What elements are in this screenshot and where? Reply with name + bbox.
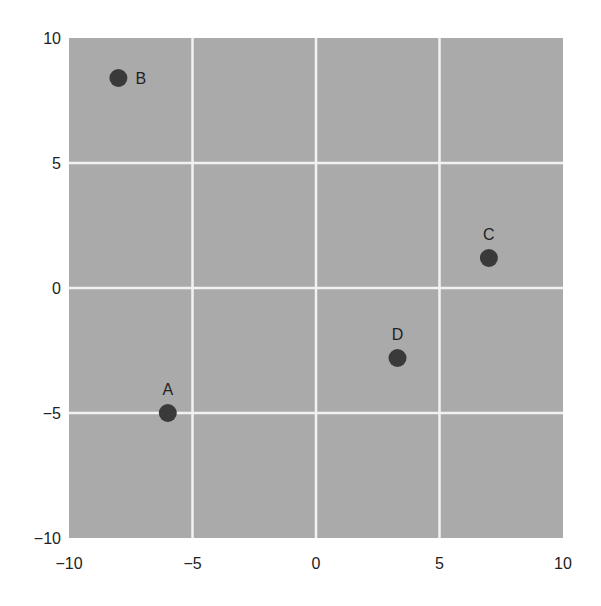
x-tick-label: 5: [435, 555, 444, 572]
y-tick-label: −5: [43, 405, 61, 422]
y-axis-tick-labels: −10−50510: [34, 30, 61, 547]
point-marker: [109, 69, 127, 87]
x-tick-label: 0: [312, 555, 321, 572]
x-axis-tick-labels: −10−50510: [55, 555, 572, 572]
point-marker: [389, 349, 407, 367]
y-tick-label: 5: [52, 155, 61, 172]
point-label: B: [135, 70, 146, 87]
point-marker: [159, 404, 177, 422]
y-tick-label: −10: [34, 530, 61, 547]
x-tick-label: −5: [183, 555, 201, 572]
x-tick-label: −10: [55, 555, 82, 572]
point-label: C: [483, 226, 495, 243]
point-label: D: [392, 326, 404, 343]
x-tick-label: 10: [554, 555, 572, 572]
point-label: A: [162, 381, 173, 398]
point-marker: [480, 249, 498, 267]
y-tick-label: 0: [52, 280, 61, 297]
y-tick-label: 10: [43, 30, 61, 47]
scatter-chart: −10−50510 −10−50510 ABCD: [0, 0, 601, 606]
